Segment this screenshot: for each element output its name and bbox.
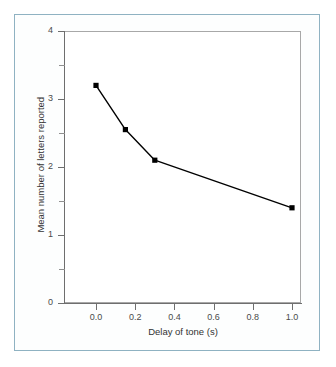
x-axis-title: Delay of tone (s) bbox=[64, 327, 302, 337]
y-tick-label-1: 1 bbox=[13, 230, 53, 239]
y-minor-tick-0.5 bbox=[59, 269, 65, 270]
y-tick-label-4: 4 bbox=[13, 26, 53, 35]
y-tick-label-2: 2 bbox=[13, 162, 53, 171]
x-axis-spine bbox=[64, 303, 302, 304]
x-tick-label-1.0: 1.0 bbox=[272, 313, 312, 322]
y-tick-3 bbox=[58, 99, 65, 100]
x-tick-0.6 bbox=[214, 304, 215, 310]
x-tick-1.0 bbox=[292, 304, 293, 310]
y-minor-tick-2.5 bbox=[59, 133, 65, 134]
x-tick-label-0.8: 0.8 bbox=[233, 313, 273, 322]
y-tick-label-3: 3 bbox=[13, 94, 53, 103]
figure-root: 01234 0.00.20.40.60.81.0 Delay of tone (… bbox=[0, 0, 336, 367]
x-tick-label-0.0: 0.0 bbox=[76, 313, 116, 322]
y-minor-tick-1.5 bbox=[59, 201, 65, 202]
x-tick-0.8 bbox=[253, 304, 254, 310]
y-axis-title: Mean number of letters reported bbox=[36, 45, 46, 285]
x-tick-label-0.2: 0.2 bbox=[115, 313, 155, 322]
x-tick-label-0.6: 0.6 bbox=[194, 313, 234, 322]
x-tick-label-0.4: 0.4 bbox=[154, 313, 194, 322]
y-tick-4 bbox=[58, 31, 65, 32]
x-tick-0.0 bbox=[96, 304, 97, 310]
x-tick-0.2 bbox=[135, 304, 136, 310]
y-tick-2 bbox=[58, 167, 65, 168]
y-tick-0 bbox=[58, 303, 65, 304]
y-tick-label-0: 0 bbox=[13, 298, 53, 307]
y-tick-1 bbox=[58, 235, 65, 236]
y-minor-tick-3.5 bbox=[59, 65, 65, 66]
x-tick-0.4 bbox=[174, 304, 175, 310]
plot-area-frame bbox=[64, 31, 301, 303]
